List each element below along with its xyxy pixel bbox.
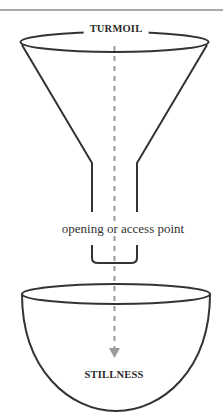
bowl-rim: [22, 284, 210, 304]
flow-arrowhead-icon: [109, 348, 120, 358]
funnel-diagram: TURMOIL opening or access point STILLNES…: [0, 0, 223, 416]
label-turmoil: TURMOIL: [84, 24, 149, 35]
label-stillness: STILLNESS: [84, 370, 143, 381]
diagram-svg: [0, 0, 223, 416]
label-opening: opening or access point: [60, 222, 186, 235]
